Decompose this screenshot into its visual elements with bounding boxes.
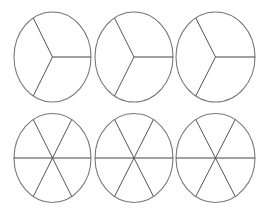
division-line (115, 57, 135, 96)
division-line (196, 18, 216, 57)
division-line (115, 158, 135, 197)
division-line (196, 119, 216, 158)
division-line (33, 119, 52, 158)
division-line (115, 18, 135, 57)
division-line (53, 158, 72, 197)
division-line (216, 158, 236, 197)
division-line (134, 158, 154, 197)
division-line (216, 119, 236, 158)
circle-divided-3-parts (176, 12, 255, 102)
circle-divided-6-parts (95, 114, 173, 203)
division-line (33, 158, 52, 197)
division-line (53, 119, 72, 158)
division-line (196, 57, 216, 96)
diagram-svg (0, 0, 268, 216)
circle-divided-3-parts (95, 12, 173, 102)
division-line (115, 119, 135, 158)
division-line (134, 119, 154, 158)
fraction-circles-diagram (0, 0, 268, 216)
division-line (33, 18, 52, 57)
circle-divided-3-parts (14, 12, 91, 102)
division-line (33, 57, 52, 96)
division-line (196, 158, 216, 197)
circle-divided-6-parts (14, 114, 91, 203)
circle-divided-6-parts (176, 114, 255, 203)
